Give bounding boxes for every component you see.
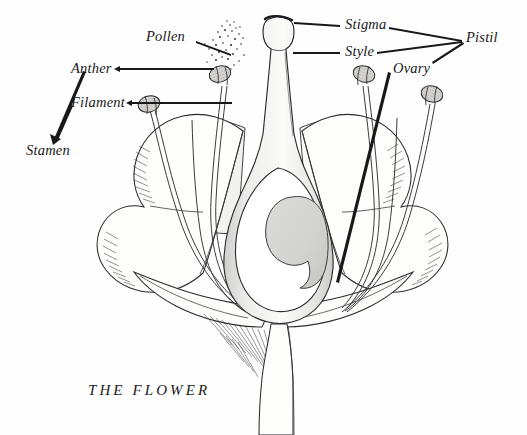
label-anther: Anther bbox=[71, 61, 112, 76]
leader-style bbox=[293, 52, 340, 54]
leader-stamen-b bbox=[55, 105, 73, 140]
anther-upper-left bbox=[207, 63, 233, 85]
label-stamen: Stamen bbox=[26, 143, 70, 158]
anther-lower-left bbox=[136, 93, 161, 115]
figure-caption: THE FLOWER bbox=[88, 382, 210, 399]
label-stigma: Stigma bbox=[345, 17, 386, 32]
label-ovary: Ovary bbox=[393, 61, 430, 76]
label-filament: Filament bbox=[71, 95, 125, 110]
leader-filament bbox=[129, 102, 232, 104]
leader-stigma bbox=[294, 22, 340, 27]
stem bbox=[259, 324, 293, 435]
anther-outer-right bbox=[419, 84, 444, 105]
label-pistil: Pistil bbox=[466, 30, 498, 45]
label-style: Style bbox=[345, 44, 374, 59]
leader-anther bbox=[117, 68, 214, 70]
pollen-dot-cloud bbox=[204, 20, 245, 69]
leader-pollen bbox=[196, 41, 231, 56]
leader-pistil-stigma bbox=[389, 27, 462, 42]
figure-page: Pollen Anther Filament Stamen Stigma Sty… bbox=[0, 0, 527, 435]
anther-upper-right bbox=[351, 63, 377, 85]
label-pollen: Pollen bbox=[146, 29, 185, 44]
